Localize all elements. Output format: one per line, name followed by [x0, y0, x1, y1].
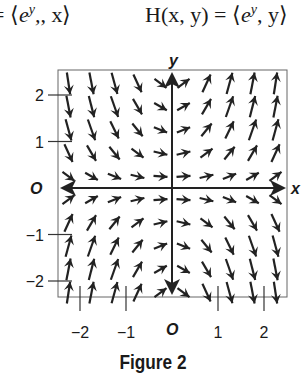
vector-arrow [133, 74, 142, 92]
x-tick-label: −2 [71, 324, 89, 341]
vector-arrow [201, 124, 211, 137]
y-tick-label: −2 [26, 273, 44, 290]
vector-arrow [154, 266, 167, 275]
vector-arrow [202, 284, 211, 302]
vector-arrow [177, 288, 189, 297]
origin-label-y: O [30, 180, 43, 197]
vector-arrow [200, 194, 214, 204]
vector-arrow [224, 147, 234, 160]
vector-arrow [87, 73, 97, 95]
x-axis-label: x [290, 180, 301, 197]
y-axis-label: y [168, 52, 179, 69]
vector-arrow [110, 121, 119, 138]
vector-arrow [201, 240, 211, 253]
vector-arrow [109, 217, 119, 230]
vector-arrow [133, 284, 142, 302]
vector-arrow [64, 214, 73, 232]
vector-arrow [225, 96, 234, 117]
vector-arrow [85, 171, 98, 180]
vector-arrow [200, 218, 212, 227]
vector-arrow [133, 99, 142, 114]
vector-arrow [248, 215, 257, 230]
vector-arrow [154, 101, 167, 110]
vector-arrow [62, 195, 74, 204]
vector-arrow [154, 148, 168, 158]
vector-arrow [224, 217, 234, 230]
vector-arrow [108, 171, 121, 180]
y-tick-label: −1 [26, 227, 44, 244]
vector-arrow [154, 171, 168, 181]
vector-arrow [64, 119, 74, 140]
vector-arrow [87, 236, 96, 257]
vector-arrow [225, 73, 235, 94]
vector-arrow [132, 124, 142, 137]
vector-arrow [108, 196, 121, 205]
vector-arrow [269, 172, 281, 181]
vector-arrow [110, 73, 120, 94]
vector-arrow [271, 72, 281, 94]
vector-arrow [177, 264, 190, 273]
y-tick-label: 1 [35, 134, 44, 151]
vector-arrow [87, 96, 97, 117]
vector-arrow [87, 145, 96, 160]
vector-arrow [177, 194, 191, 204]
vector-arrow [225, 238, 234, 255]
vector-arrow [87, 282, 97, 304]
vector-arrow [225, 259, 234, 280]
vector-arrow [177, 241, 190, 250]
vector-arrow [223, 172, 236, 181]
vector-arrow [87, 215, 96, 230]
vector-arrow [248, 145, 257, 160]
vector-arrow [248, 119, 257, 140]
vector-arrow [177, 149, 191, 159]
vector-arrow [131, 171, 145, 181]
vector-arrow [154, 125, 167, 134]
vector-arrow [246, 173, 259, 182]
vector-arrow [62, 171, 74, 180]
vector-arrow [271, 119, 281, 140]
vector-arrow [271, 282, 281, 304]
vector-arrow [87, 119, 96, 140]
vector-arrow [131, 218, 143, 227]
vector-arrow [202, 74, 211, 92]
vector-arrow [110, 259, 119, 280]
vector-arrow [248, 236, 257, 257]
vector-arrow [248, 96, 258, 117]
vector-arrow [154, 242, 167, 251]
vector-arrow [271, 214, 280, 232]
vector-arrow [177, 218, 191, 228]
vector-arrow [110, 282, 120, 303]
vector-arrow [248, 259, 258, 280]
vector-arrow [131, 148, 143, 157]
vector-field-plot: −2−11221−1−2 y x O O [0, 0, 306, 386]
x-tick-label: 1 [214, 324, 223, 341]
y-tick-label: 2 [35, 87, 44, 104]
vector-arrow [225, 282, 235, 303]
vector-arrow [154, 195, 168, 205]
vector-arrow [271, 259, 281, 281]
vector-arrow [271, 96, 281, 118]
vector-arrow [154, 288, 166, 297]
vector-arrow [200, 149, 212, 158]
vector-arrow [202, 262, 211, 277]
vector-arrow [177, 126, 190, 135]
vector-arrow [271, 236, 281, 257]
x-tick-label: 2 [260, 324, 269, 341]
vector-arrow [248, 282, 258, 304]
figure-caption: Figure 2 [28, 350, 279, 374]
vector-arrow [64, 259, 74, 281]
vector-arrow [131, 195, 145, 205]
vector-arrow [269, 195, 281, 204]
vector-arrow [177, 79, 189, 88]
vector-arrow [64, 72, 74, 94]
vector-arrow [132, 240, 142, 253]
vector-arrow [133, 262, 142, 277]
vector-arrow [202, 99, 211, 114]
vector-arrow [154, 78, 166, 87]
vector-arrow [64, 144, 73, 162]
vector-arrow [110, 96, 119, 117]
x-tick-label: −1 [117, 324, 135, 341]
vector-arrow [271, 144, 280, 162]
vector-arrow [154, 218, 168, 228]
vector-arrow [87, 259, 97, 280]
